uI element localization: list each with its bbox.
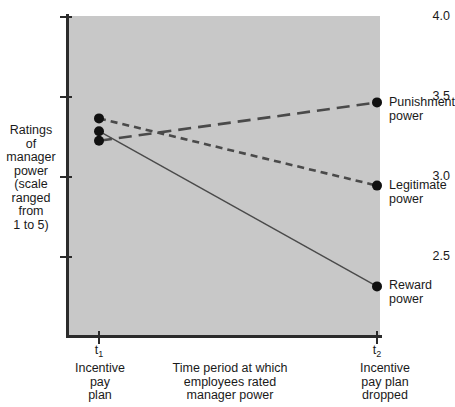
series-label-reward-power: Reward power [389,279,432,306]
series-label-punishment-power: Punishment power [389,96,455,123]
series-lines [99,102,377,286]
series-line-reward-power [99,131,377,286]
data-point-punishment-power-end [372,97,382,107]
data-point-punishment-power-start [94,136,104,146]
data-point-legitimate-power-end [372,181,382,191]
data-point-reward-power-end [372,281,382,291]
series-label-legitimate-power: Legitimate power [389,179,447,206]
series-line-punishment-power [99,102,377,140]
data-point-legitimate-power-start [94,113,104,123]
data-point-reward-power-start [94,126,104,136]
series-line-legitimate-power [99,118,377,185]
